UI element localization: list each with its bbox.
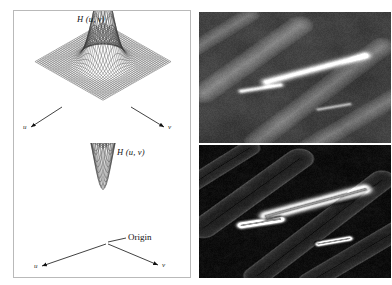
- highpass-u-axis-label: u: [34, 262, 38, 270]
- origin-annotation-label: Origin: [128, 232, 152, 242]
- lowpass-v-axis-label: v: [168, 123, 171, 131]
- lowpass-function-label: H (u, v): [77, 14, 105, 24]
- lowpass-result-image: [199, 12, 391, 143]
- figure-container: H (u, v) u v H (u, v): [0, 0, 392, 285]
- highpass-v-axis-label: v: [162, 261, 165, 269]
- surface-plots-panel: H (u, v) u v H (u, v): [13, 10, 191, 278]
- lowpass-surface-plot: H (u, v) u v: [14, 11, 191, 143]
- lowpass-mesh-surface: [14, 11, 191, 143]
- lowpass-u-axis-label: u: [23, 123, 27, 131]
- highpass-surface-plot: H (u, v) Origin u v: [14, 143, 191, 278]
- lowpass-image-canvas: [199, 12, 391, 143]
- highpass-mesh-surface: [14, 143, 191, 278]
- highpass-result-image: [199, 145, 391, 278]
- highpass-image-canvas: [199, 145, 391, 278]
- highpass-function-label: H (u, v): [117, 147, 145, 157]
